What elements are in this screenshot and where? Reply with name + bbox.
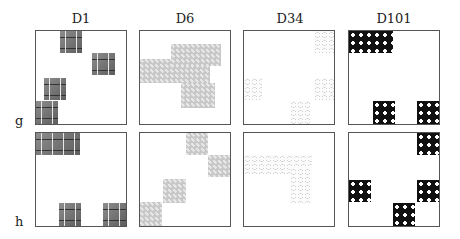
texture-patch xyxy=(36,133,80,155)
texture-patch xyxy=(417,180,439,202)
panel-h-d101 xyxy=(348,132,440,227)
texture-patch xyxy=(140,202,162,226)
texture-patch xyxy=(349,180,371,202)
column-title-d1: D1 xyxy=(34,11,128,26)
panel-g-d1 xyxy=(35,30,127,125)
texture-patch xyxy=(44,78,66,100)
panel-g-d6 xyxy=(139,30,231,125)
row-label-h: h xyxy=(15,214,23,229)
texture-patch xyxy=(186,133,208,155)
texture-patch xyxy=(314,31,334,53)
texture-patch xyxy=(36,101,58,124)
panel-h-d1 xyxy=(35,132,127,227)
texture-patch xyxy=(103,203,126,226)
column-title-d34: D34 xyxy=(243,11,337,26)
panel-g-d101 xyxy=(348,30,440,125)
column-title-d6: D6 xyxy=(138,11,232,26)
texture-patch xyxy=(417,101,439,124)
texture-patch xyxy=(59,203,81,226)
panel-h-d6 xyxy=(139,132,231,227)
panel-h-d34 xyxy=(243,132,335,227)
panel-g-d34 xyxy=(243,30,335,125)
row-label-g: g xyxy=(15,113,23,128)
texture-patch xyxy=(244,78,262,100)
texture-patch xyxy=(373,101,395,124)
column-title-d101: D101 xyxy=(347,11,441,26)
texture-patch xyxy=(417,133,439,155)
texture-patch xyxy=(314,78,334,100)
texture-patch xyxy=(163,179,186,203)
texture-patch xyxy=(393,203,415,226)
texture-patch xyxy=(171,44,221,66)
texture-patch xyxy=(290,168,312,203)
texture-patch xyxy=(60,31,82,53)
texture-patch xyxy=(349,31,393,53)
texture-patch xyxy=(181,83,215,108)
texture-patch xyxy=(92,53,115,75)
texture-patch xyxy=(290,101,310,124)
texture-patch xyxy=(208,155,231,177)
